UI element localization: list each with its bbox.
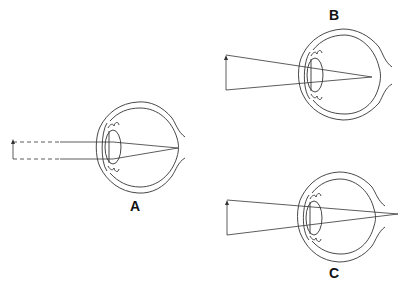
eye-b: B: [224, 7, 392, 120]
eye-diagram-canvas: A B C: [0, 0, 404, 286]
eye-a: A: [11, 102, 185, 214]
eye-c-arrowhead-icon: [225, 200, 229, 205]
eye-c-ray-top: [227, 200, 398, 214]
eye-b-outer-sclera: [299, 29, 393, 120]
eye-a-label: A: [130, 198, 140, 214]
eye-b-label: B: [329, 7, 339, 23]
eye-a-iris-top: [108, 122, 119, 128]
eye-a-ray-bottom-refracted: [113, 148, 178, 159]
eye-b-ray-top: [226, 55, 372, 77]
eye-b-iris-bottom: [311, 94, 322, 100]
eye-c-label: C: [329, 265, 339, 281]
eye-b-iris-top: [311, 50, 322, 56]
eye-c-iris-bottom: [310, 236, 321, 242]
eye-b-lens: [307, 58, 323, 92]
eye-a-iris-bottom: [108, 166, 119, 172]
eye-b-arrowhead-icon: [224, 55, 228, 60]
eye-a-arrowhead-icon: [11, 139, 15, 144]
eye-a-inner-retina: [110, 108, 179, 187]
eye-c: C: [225, 172, 398, 281]
eye-c-lens: [306, 201, 322, 235]
eye-a-ray-top-refracted: [113, 142, 178, 148]
eye-c-iris-top: [310, 193, 321, 199]
